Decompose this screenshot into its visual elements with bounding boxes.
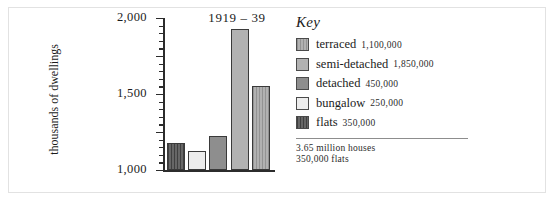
- legend-swatch-icon: [296, 58, 309, 71]
- y-tick-label: 2,000: [117, 10, 147, 25]
- y-tick-label: 1,500: [117, 86, 147, 101]
- legend-value: 1,100,000: [361, 40, 402, 50]
- legend-footnotes: 3.65 million houses350,000 flats: [296, 143, 534, 166]
- legend-swatch-icon: [296, 97, 309, 110]
- bar-flats: [167, 143, 185, 170]
- figure-root: 1919 – 39 thousands of dwellings 05001,0…: [0, 0, 555, 202]
- y-tick-minor: [159, 64, 163, 65]
- y-tick-minor: [159, 140, 163, 141]
- legend-value: 1,850,000: [393, 59, 434, 69]
- y-tick-major: 2,000: [156, 18, 163, 19]
- legend-footnote: 3.65 million houses: [296, 143, 534, 155]
- y-tick-minor: [159, 48, 163, 49]
- x-axis-line: [163, 170, 275, 172]
- y-tick-major: 0: [156, 170, 163, 171]
- bar-chart: 1919 – 39 thousands of dwellings 05001,0…: [20, 0, 285, 202]
- legend-swatch-icon: [296, 116, 309, 129]
- y-tick-minor: [159, 102, 163, 103]
- legend-title: Key: [296, 14, 534, 31]
- y-axis-line: [163, 18, 165, 170]
- legend-label: bungalow: [316, 96, 365, 111]
- bar-semi-detached: [231, 29, 249, 170]
- y-tick-minor: [159, 33, 163, 34]
- y-tick-minor: [159, 26, 163, 27]
- plot-area: 05001,0001,5002,000: [163, 18, 275, 170]
- bar-bungalow: [188, 151, 206, 170]
- y-tick-minor: [159, 86, 163, 87]
- y-axis-label: thousands of dwellings: [47, 25, 62, 175]
- legend-swatch-icon: [296, 77, 309, 90]
- legend-footnote: 350,000 flats: [296, 154, 534, 166]
- legend-label: terraced: [316, 37, 356, 52]
- y-tick-minor: [159, 162, 163, 163]
- legend-item-detached: detached450,000: [296, 74, 534, 94]
- legend-label: detached: [316, 76, 360, 91]
- legend-swatch-icon: [296, 38, 309, 51]
- legend-divider: [296, 138, 468, 139]
- y-tick-minor: [159, 109, 163, 110]
- y-tick-minor: [159, 147, 163, 148]
- bar-terraced: [252, 86, 270, 170]
- y-tick-minor: [159, 155, 163, 156]
- legend-item-bungalow: bungalow250,000: [296, 94, 534, 114]
- legend-value: 350,000: [343, 118, 376, 128]
- legend-label: flats: [316, 115, 338, 130]
- y-tick-minor: [159, 117, 163, 118]
- legend: Key terraced1,100,000semi-detached1,850,…: [296, 14, 534, 166]
- y-tick-major: 1,500: [156, 56, 163, 57]
- legend-items: terraced1,100,000semi-detached1,850,000d…: [296, 35, 534, 133]
- y-tick-minor: [159, 79, 163, 80]
- y-tick-minor: [159, 41, 163, 42]
- legend-label: semi-detached: [316, 57, 388, 72]
- y-tick-label: 1,000: [117, 162, 147, 177]
- y-tick-major: 500: [156, 132, 163, 133]
- y-tick-minor: [159, 124, 163, 125]
- y-tick-minor: [159, 71, 163, 72]
- legend-value: 250,000: [370, 98, 403, 108]
- legend-item-semi-detached: semi-detached1,850,000: [296, 55, 534, 75]
- legend-item-terraced: terraced1,100,000: [296, 35, 534, 55]
- y-tick-major: 1,000: [156, 94, 163, 95]
- legend-item-flats: flats350,000: [296, 113, 534, 133]
- bar-detached: [209, 136, 227, 170]
- legend-value: 450,000: [365, 79, 398, 89]
